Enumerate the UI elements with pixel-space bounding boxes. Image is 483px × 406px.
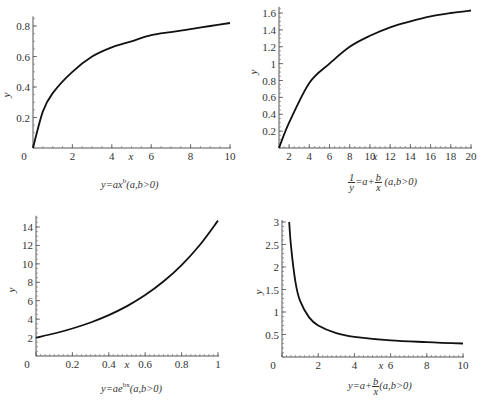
y-tick-label: 2 (28, 332, 34, 344)
curve (289, 222, 463, 344)
x-tick-label: 6 (148, 150, 154, 162)
caption-text: y=ae (101, 383, 123, 394)
y-tick-label: 4 (28, 313, 34, 325)
caption-hyperbolic: y=a+bx(a,b>0) (348, 377, 412, 396)
charts-canvas: 02468100.20.40.60.8xy24681012141618200.2… (0, 0, 483, 406)
x-tick-label: 2 (70, 150, 76, 162)
y-tick-label: 1 (274, 306, 280, 318)
y-tick-label: 8 (28, 276, 34, 288)
y-tick-label: 0.4 (16, 81, 30, 93)
y-axis-label: y (5, 287, 17, 293)
caption-power: y=axb(a,b>0) (101, 177, 159, 190)
chart-1: 02468100.20.40.60.8xy (0, 16, 236, 162)
x-tick-label: 16 (425, 150, 437, 162)
caption-text: (a,b>0) (126, 179, 158, 190)
caption-text: (a,b>0) (382, 176, 417, 187)
x-tick-label: 2 (315, 359, 321, 371)
y-tick-label: 1.5 (265, 284, 279, 296)
x-tick-label: 8 (424, 359, 430, 371)
x-axis-label: x (378, 359, 384, 371)
y-axis-label: y (247, 69, 259, 75)
x-tick-label: 8 (347, 150, 353, 162)
x-tick-label: 6 (388, 359, 394, 371)
y-tick-label: 0.5 (265, 329, 279, 341)
x-axis-label: x (124, 358, 130, 370)
y-tick-label: 0.6 (16, 51, 30, 63)
x-tick-label: 10 (458, 359, 470, 371)
x-tick-label: 0.2 (66, 358, 80, 370)
y-tick-label: 1 (271, 58, 277, 70)
caption-text: y=a+ (348, 380, 372, 391)
y-tick-label: 0.4 (262, 108, 276, 120)
x-tick-label: 10 (225, 150, 237, 162)
x-tick-label: 14 (405, 150, 417, 162)
x-axis-label: x (128, 150, 134, 162)
caption-text: =a+ (355, 176, 374, 187)
y-tick-label: 10 (22, 258, 34, 270)
y-tick-label: 3 (274, 216, 280, 228)
chart-3: 00.20.40.60.812468101214xy (5, 216, 221, 370)
fraction: bx (375, 173, 382, 192)
x-tick-label: 2 (286, 150, 292, 162)
y-tick-label: 2 (274, 261, 280, 273)
y-tick-label: 0.8 (16, 20, 30, 32)
y-tick-label: 12 (22, 239, 33, 251)
x-tick-label: 4 (352, 359, 358, 371)
caption-text: y=ax (101, 179, 123, 190)
caption-text: (a,b>0) (379, 380, 411, 391)
y-tick-label: 0.6 (262, 91, 276, 103)
y-tick-label: 0.2 (262, 125, 276, 137)
x-axis-label: x (372, 150, 378, 162)
x-tick-label: 0.4 (102, 358, 116, 370)
caption-exponential: y=aebx(a,b>0) (101, 381, 162, 394)
y-tick-label: 2.5 (265, 239, 279, 251)
chart-2: 24681012141618200.20.40.60.811.21.41.6xy (247, 7, 477, 162)
x-tick-label: 4 (109, 150, 115, 162)
curve (36, 221, 218, 338)
caption-sup: bx (123, 381, 130, 389)
y-tick-label: 1.2 (262, 41, 276, 53)
curve (33, 23, 230, 148)
x-tick-label: 1 (215, 358, 221, 370)
x-tick-label: 0.8 (175, 358, 189, 370)
x-tick-label: 12 (385, 150, 396, 162)
caption-text: (a,b>0) (130, 383, 162, 394)
y-tick-label: 0.2 (16, 112, 30, 124)
denominator: x (375, 183, 382, 192)
x-tick-label: 0.6 (138, 358, 152, 370)
x-tick-label: 4 (307, 150, 313, 162)
x-tick-label: 18 (445, 150, 457, 162)
y-axis-label: y (0, 92, 12, 98)
y-axis-label: y (252, 289, 264, 295)
caption-reciprocal: 1y=a+bx (a,b>0) (348, 173, 417, 192)
y-tick-label: 0.8 (262, 75, 276, 87)
curve (279, 11, 471, 149)
x-tick-label: 6 (327, 150, 333, 162)
x-tick-label: 0 (21, 150, 27, 162)
x-tick-label: 0 (24, 358, 30, 370)
x-tick-label: 0 (270, 359, 276, 371)
y-tick-label: 6 (28, 295, 34, 307)
y-tick-label: 1.6 (262, 7, 276, 19)
chart-4: 02468100.511.522.53xy (252, 216, 469, 371)
y-tick-label: 1.4 (262, 24, 276, 36)
y-tick-label: 14 (22, 221, 34, 233)
x-tick-label: 20 (466, 150, 478, 162)
x-tick-label: 8 (188, 150, 194, 162)
